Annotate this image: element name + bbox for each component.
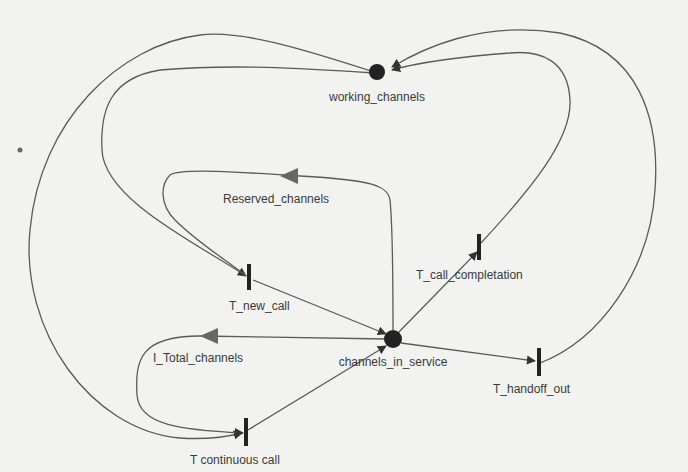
label-total-channels: I_Total_channels [153,351,243,365]
stray-dot [18,148,23,153]
diagram-svg: working_channels channels_in_service T_n… [0,0,688,472]
transition-new-call[interactable] [247,264,251,290]
transition-continuous-call[interactable] [244,418,248,446]
label-handoff-out: T_handoff_out [493,382,571,396]
label-call-completation: T_call_completation [416,268,523,282]
reserved-channels-arrow-icon [280,168,298,184]
transition-handoff-out[interactable] [537,348,541,376]
label-reserved-channels: Reserved_channels [223,192,329,206]
label-working-channels: working_channels [328,90,425,104]
label-new-call: T_new_call [229,299,290,313]
arc-handoff-to-working [392,30,656,363]
arc-service-to-completion [397,252,477,334]
label-channels-in-service: channels_in_service [339,355,448,369]
label-continuous-call: T continuous call [190,453,280,467]
total-channels-arrow-icon [200,328,218,344]
place-channels-in-service[interactable] [384,330,402,348]
place-working-channels[interactable] [369,64,385,80]
petri-net-diagram: working_channels channels_in_service T_n… [0,0,688,472]
transition-call-completation[interactable] [477,234,481,260]
arc-working-to-continuous [29,34,374,438]
arc-completion-to-working [392,53,570,243]
